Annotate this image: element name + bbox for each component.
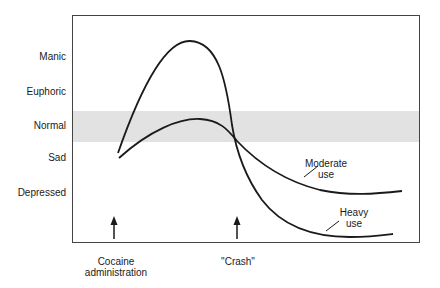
heavy-label-line1: Heavy bbox=[332, 207, 376, 218]
x-label-cocaine-line1: Cocaine bbox=[76, 256, 156, 267]
chart-canvas bbox=[0, 0, 440, 288]
y-label-normal: Normal bbox=[34, 120, 66, 131]
x-label-cocaine-line2: administration bbox=[76, 267, 156, 278]
x-label-crash: "Crash" bbox=[212, 256, 264, 267]
x-label-cocaine-administration: Cocaine administration bbox=[76, 256, 156, 278]
heavy-use-label: Heavy use bbox=[332, 207, 376, 229]
crash-arrow-icon bbox=[234, 216, 241, 239]
cocaine-arrow-icon bbox=[111, 216, 118, 239]
y-label-manic: Manic bbox=[39, 51, 66, 62]
y-label-euphoric: Euphoric bbox=[27, 86, 66, 97]
heavy-label-line2: use bbox=[332, 218, 376, 229]
moderate-use-label: Moderate use bbox=[298, 158, 354, 180]
moderate-label-line1: Moderate bbox=[298, 158, 354, 169]
normal-band bbox=[73, 111, 420, 142]
moderate-label-line2: use bbox=[298, 169, 354, 180]
y-label-sad: Sad bbox=[48, 152, 66, 163]
y-label-depressed: Depressed bbox=[18, 187, 66, 198]
